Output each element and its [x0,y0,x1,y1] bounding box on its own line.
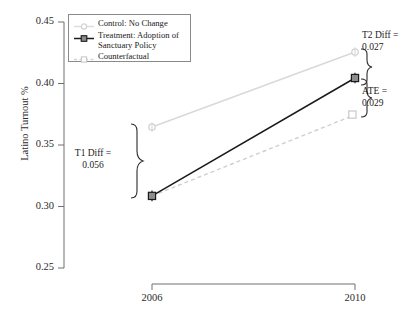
x-axis-bracket [152,284,355,290]
annotation-t2-diff: T2 Diff = 0.027 [362,30,418,53]
legend-label-control: Control: No Change [98,18,168,28]
y-tick-label-0: 0.45 [18,15,54,26]
y-tick-label-3: 0.30 [18,200,54,211]
x-tick-label-2006: 2006 [128,292,176,303]
legend: Control: No Change Treatment: Adoption o… [68,14,191,62]
legend-item-treatment: Treatment: Adoption of Sanctuary Policy [73,30,186,50]
series-line-counterfactual [152,115,355,196]
x-tick-label-2010: 2010 [331,292,379,303]
marker-counterfactual-2010 [349,111,356,118]
series-line-treatment [152,78,355,196]
y-tick-label-4: 0.25 [18,261,54,272]
marker-treatment-2006 [148,192,155,199]
legend-swatch-counterfactual-icon [73,51,95,62]
legend-item-counterfactual: Counterfactual [73,51,186,62]
legend-label-counterfactual: Counterfactual [98,51,149,61]
legend-swatch-treatment-icon [73,30,95,41]
legend-label-treatment: Treatment: Adoption of Sanctuary Policy [98,30,179,50]
brace-t1-diff [131,124,143,198]
annotation-ate: ATE = 0.029 [362,86,418,109]
legend-swatch-control-icon [73,18,95,29]
legend-item-control: Control: No Change [73,18,186,29]
marker-treatment-2010 [351,74,358,81]
y-axis-title: Latino Turnout % [19,54,30,194]
series-line-control [152,52,355,127]
annotation-t1-diff: T1 Diff = 0.056 [60,148,126,171]
chart-figure: 0.45 0.40 0.35 0.30 0.25 Latino Turnout … [0,0,418,321]
